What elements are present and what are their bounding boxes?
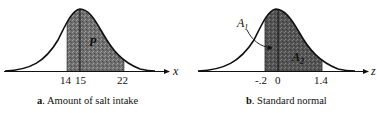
normal-distribution-figure: P 14 15 22 x a. Amount of salt intake A1… xyxy=(0,0,377,113)
caption-a-text: . Amount of salt intake xyxy=(42,95,138,106)
area-label-a1: A1 xyxy=(236,16,248,32)
tick-label-0: 0 xyxy=(275,74,281,86)
panel-b-standard-normal: A1 A2 -.2 0 1.4 z b. Standard normal xyxy=(198,9,376,106)
tick-label-14: 14 xyxy=(60,74,72,86)
caption-b: b. Standard normal xyxy=(246,95,327,106)
x-axis-arrow-icon xyxy=(164,69,170,74)
shaded-area-a1-a2 xyxy=(198,9,355,71)
axis-label-x: x xyxy=(172,64,179,78)
z-axis-arrow-icon xyxy=(363,69,369,74)
panel-a-salt-intake: P 14 15 22 x a. Amount of salt intake xyxy=(4,9,179,106)
caption-b-text: . Standard normal xyxy=(252,95,327,106)
axis-label-z: z xyxy=(370,64,376,78)
caption-a: a. Amount of salt intake xyxy=(37,95,139,106)
tick-label-1-4: 1.4 xyxy=(314,74,328,86)
area-label-p: P xyxy=(89,35,97,49)
tick-label-22: 22 xyxy=(117,74,128,86)
tick-label-neg-0-2: -.2 xyxy=(255,74,267,86)
tick-label-15: 15 xyxy=(75,74,87,86)
